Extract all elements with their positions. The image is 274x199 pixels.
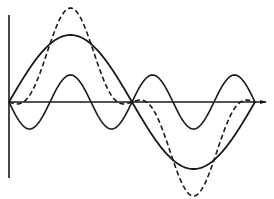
waveform-plot	[0, 0, 274, 199]
axis-arrowhead-icon	[260, 100, 267, 104]
waveform-diagram	[0, 0, 274, 199]
